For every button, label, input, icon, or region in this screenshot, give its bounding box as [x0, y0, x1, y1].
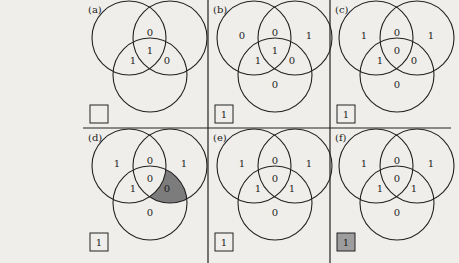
region-value-top-mid: 0 — [147, 27, 153, 38]
venn-figure-grid: (a)0110(b)01011001(c)11001001(d)11001001… — [0, 0, 459, 263]
region-value-bottom: 0 — [272, 79, 278, 90]
region-value-right-mid: 0 — [164, 183, 170, 194]
region-value-bottom: 0 — [147, 207, 153, 218]
region-value-right-mid: 0 — [289, 55, 295, 66]
panel-label: (d) — [88, 132, 102, 143]
region-value-center: 0 — [394, 45, 400, 56]
region-value-left-mid: 1 — [377, 183, 383, 194]
output-box-value: 1 — [221, 109, 227, 120]
panel-c: (c)11001001 — [335, 1, 454, 123]
region-value-right-mid: 1 — [411, 183, 417, 194]
region-value-top-right: 1 — [306, 158, 312, 169]
region-value-center: 1 — [272, 45, 278, 56]
panel-f: (f)11001101 — [335, 129, 454, 251]
panel-label: (c) — [335, 4, 349, 15]
region-value-top-right: 1 — [428, 158, 434, 169]
region-value-top-right: 1 — [306, 30, 312, 41]
region-value-top-mid: 0 — [394, 27, 400, 38]
region-value-left-mid: 1 — [377, 55, 383, 66]
region-value-right-mid: 0 — [164, 55, 170, 66]
region-value-center: 1 — [147, 45, 153, 56]
region-value-top-mid: 0 — [272, 27, 278, 38]
region-value-top-mid: 0 — [147, 155, 153, 166]
output-box — [90, 105, 108, 123]
panel-e: (e)11001101 — [213, 129, 332, 251]
region-value-top-right: 1 — [428, 30, 434, 41]
region-value-top-right: 1 — [181, 158, 187, 169]
region-value-left-mid: 1 — [255, 183, 261, 194]
panel-label: (f) — [335, 132, 347, 143]
panel-label: (b) — [213, 4, 227, 15]
region-value-top-left: 0 — [239, 30, 245, 41]
output-box-value: 1 — [343, 109, 349, 120]
region-value-top-mid: 0 — [394, 155, 400, 166]
output-box-value: 1 — [221, 237, 227, 248]
region-value-right-mid: 0 — [411, 55, 417, 66]
panel-label: (a) — [88, 4, 102, 15]
region-value-top-left: 1 — [361, 158, 367, 169]
region-value-bottom: 0 — [394, 207, 400, 218]
panel-d: (d)11001001 — [88, 129, 207, 251]
region-value-top-left: 1 — [361, 30, 367, 41]
panel-label: (e) — [213, 132, 227, 143]
panel-b: (b)01011001 — [213, 1, 332, 123]
region-value-top-mid: 0 — [272, 155, 278, 166]
output-box-value: 1 — [343, 237, 349, 248]
region-value-right-mid: 1 — [289, 183, 295, 194]
output-box-value: 1 — [96, 237, 102, 248]
region-value-left-mid: 1 — [130, 183, 136, 194]
region-value-left-mid: 1 — [255, 55, 261, 66]
region-value-top-left: 1 — [114, 158, 120, 169]
region-value-left-mid: 1 — [130, 55, 136, 66]
region-value-top-left: 1 — [239, 158, 245, 169]
region-value-bottom: 0 — [272, 207, 278, 218]
panel-a: (a)0110 — [88, 1, 207, 123]
region-value-center: 0 — [272, 173, 278, 184]
region-value-bottom: 0 — [394, 79, 400, 90]
region-value-center: 0 — [147, 173, 153, 184]
region-value-center: 0 — [394, 173, 400, 184]
